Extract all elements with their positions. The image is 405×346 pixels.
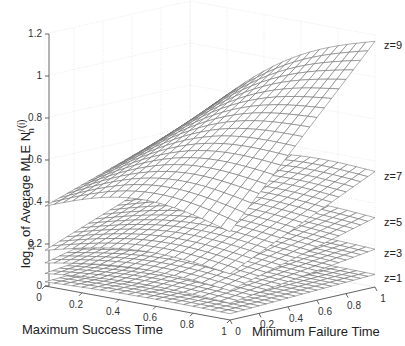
z-tick-label: 0.8 <box>28 112 42 123</box>
z-label-sub: 10 <box>26 241 36 251</box>
z-tick-label: 0 <box>36 280 42 291</box>
z-label-suffix: (i) <box>16 119 27 128</box>
y-tick <box>288 307 290 311</box>
y-tick-label: 0.4 <box>289 313 303 324</box>
x-tick-label: 1 <box>221 326 227 337</box>
y-tick <box>230 320 232 324</box>
x-tick <box>79 293 82 296</box>
z-label-prefix: log <box>18 251 33 268</box>
surface-label: z=3 <box>384 247 402 259</box>
y-tick-label: 1 <box>380 293 386 304</box>
y-tick <box>375 287 377 291</box>
x-tick-label: 0.8 <box>180 319 194 330</box>
x-tick <box>153 306 156 309</box>
y-tick <box>346 294 348 298</box>
x-tick-label: 0.4 <box>106 306 120 317</box>
surface-meshes <box>45 41 375 313</box>
z-label-mid: of Average MLE N <box>18 132 33 241</box>
x-tick <box>42 286 45 289</box>
x-tick <box>227 320 230 323</box>
surface-label: z=9 <box>384 39 402 51</box>
x-tick <box>190 313 193 316</box>
surface-label: z=1 <box>384 272 402 284</box>
y-axis-label: Minimum Failure Time <box>252 324 380 339</box>
surface-label: z=5 <box>384 216 402 228</box>
y-tick-label: 0.6 <box>318 306 332 317</box>
y-tick <box>317 300 319 304</box>
surface-chart: 00.20.40.60.811.200.20.40.60.8100.20.40.… <box>0 0 405 346</box>
surface-label: z=7 <box>384 170 402 182</box>
x-tick-label: 0.2 <box>69 299 83 310</box>
x-tick-label: 0 <box>36 292 42 303</box>
y-tick-label: 0.8 <box>347 300 361 311</box>
x-axis-label: Maximum Success Time <box>22 322 163 337</box>
y-tick-label: 0 <box>235 326 241 337</box>
z-gridline <box>45 1 375 35</box>
y-tick <box>259 313 261 317</box>
x-tick <box>116 300 119 303</box>
z-tick-label: 1.2 <box>28 28 42 39</box>
z-label-sub2: n <box>26 128 36 133</box>
z-axis-label: log10 of Average MLE N/n(i) <box>16 119 36 268</box>
z-tick-label: 1 <box>36 70 42 81</box>
